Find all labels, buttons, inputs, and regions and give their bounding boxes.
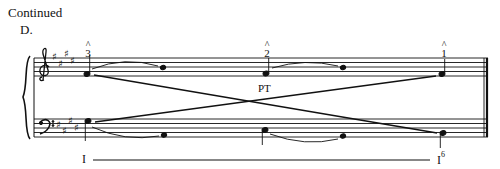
svg-text:♯: ♯: [56, 119, 61, 130]
scale-degree-number: 2: [264, 47, 270, 59]
passing-tone-label: PT: [258, 82, 271, 94]
roman-numeral-end: I6: [437, 152, 445, 168]
scale-degree-2: ^ 2: [260, 40, 274, 58]
svg-text:♯: ♯: [74, 122, 79, 133]
scale-degree-number: 1: [441, 47, 447, 59]
treble-key-signature: ♯ ♯ ♯ ♯: [52, 48, 75, 69]
svg-text:♯: ♯: [58, 58, 63, 69]
svg-text:♯: ♯: [62, 125, 67, 136]
svg-text:♯: ♯: [70, 55, 75, 66]
bass-clef-icon: [39, 120, 53, 134]
note-f-sharp-treble: [160, 65, 167, 71]
roman-numeral-start: I: [82, 152, 86, 167]
svg-text:♯: ♯: [64, 48, 69, 59]
treble-staff-lines: [34, 58, 488, 76]
scale-degree-1: ^ 1: [437, 40, 451, 58]
bass-slurs: [92, 127, 338, 142]
brace-icon: [23, 56, 30, 139]
inversion-figure: 6: [441, 150, 445, 159]
scale-degree-number: 3: [85, 47, 91, 59]
svg-text:♯: ♯: [52, 51, 57, 62]
note-d-sharp-treble: [340, 65, 347, 71]
grand-staff: ♯ ♯ ♯ ♯ ♯ ♯ ♯ ♯: [0, 0, 500, 169]
scale-degree-3: ^ 3: [81, 40, 95, 58]
svg-text:♯: ♯: [68, 115, 73, 126]
note-f-sharp-bass: [340, 133, 347, 139]
